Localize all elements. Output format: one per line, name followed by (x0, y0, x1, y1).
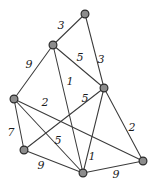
graph-node (79, 169, 87, 177)
edge-weight-label: 9 (113, 168, 120, 181)
edges-layer (14, 14, 143, 173)
edge-weight-label: 1 (67, 75, 74, 88)
graph-edge (53, 45, 83, 173)
edge-weight-label: 2 (128, 121, 136, 134)
graph-edge (14, 99, 24, 150)
weighted-graph-figure: 3539152759219 (0, 0, 157, 195)
graph-node (10, 95, 18, 103)
graph-node (81, 10, 89, 18)
graph-edge (24, 150, 83, 173)
edge-weight-label: 3 (58, 19, 65, 32)
graph-edge (24, 88, 104, 150)
edge-weight-label: 5 (77, 51, 84, 64)
graph-edge (104, 88, 143, 161)
edge-weight-label: 5 (82, 92, 89, 105)
graph-edge (85, 14, 104, 88)
graph-node (49, 41, 57, 49)
edge-weight-label: 9 (26, 58, 33, 71)
edge-weight-label: 7 (8, 126, 15, 139)
graph-node (20, 146, 28, 154)
graph-edge (14, 45, 53, 99)
edge-weight-label: 2 (41, 96, 49, 109)
edge-weight-label: 3 (98, 53, 105, 66)
graph-canvas: 3539152759219 (0, 0, 157, 195)
edge-weight-label: 1 (89, 150, 96, 163)
edge-weight-label: 9 (38, 159, 45, 172)
graph-node (100, 84, 108, 92)
graph-node (139, 157, 147, 165)
edge-weight-label: 5 (55, 134, 62, 147)
graph-edge (14, 99, 83, 173)
edge-weight-labels-layer: 3539152759219 (8, 19, 136, 181)
